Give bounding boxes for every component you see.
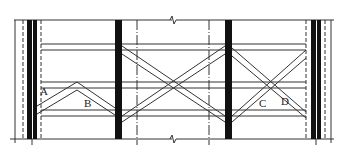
column-left-b — [33, 20, 37, 139]
label-a: A — [40, 86, 48, 97]
label-d: D — [281, 96, 289, 107]
column-right-b — [317, 20, 321, 139]
column-left-a — [27, 20, 32, 139]
label-c: C — [259, 98, 266, 109]
column-mid-left — [115, 20, 122, 139]
column-mid-right — [225, 20, 232, 139]
column-right-a — [311, 20, 316, 139]
label-b: B — [84, 98, 91, 109]
bracing-diagram — [0, 0, 347, 158]
